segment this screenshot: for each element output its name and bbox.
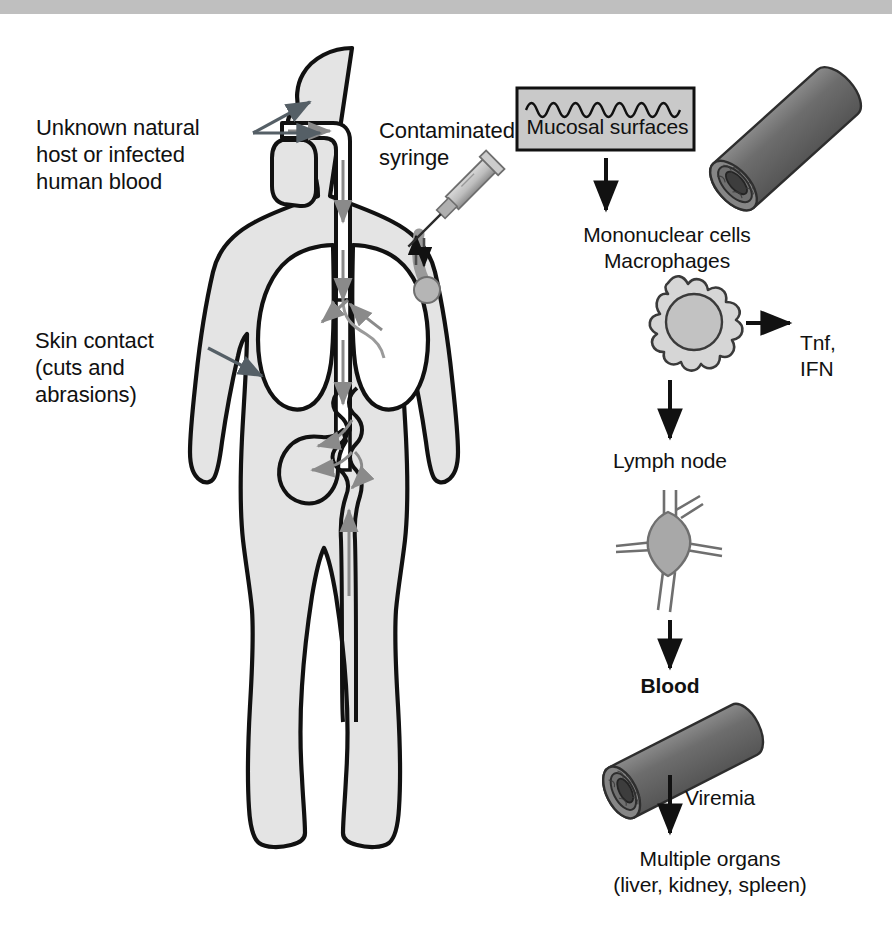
macrophage-nucleus [666,294,722,350]
oral-cavity-lower [272,140,316,206]
label-blood: Blood [600,673,740,699]
infection-cascade [517,59,870,833]
label-mononuclear-cells-macrophages: Mononuclear cells Macrophages [552,222,782,273]
lymph-node-graphic [616,490,722,612]
figure-canvas: Unknown natural host or infected human b… [0,0,892,928]
label-multiple-organs: Multiple organs (liver, kidney, spleen) [560,846,860,897]
blood-vessel-top [702,59,870,219]
arm-vessel-bulb [414,277,440,303]
label-lymph-node: Lymph node [575,448,765,474]
label-unknown-natural-host: Unknown natural host or infected human b… [36,115,266,195]
label-skin-contact: Skin contact (cuts and abrasions) [35,328,255,408]
label-tnf-ifn: Tnf, IFN [800,330,880,381]
label-mucosal-surfaces: Mucosal surfaces [520,114,695,140]
label-viremia: Viremia [685,785,805,811]
